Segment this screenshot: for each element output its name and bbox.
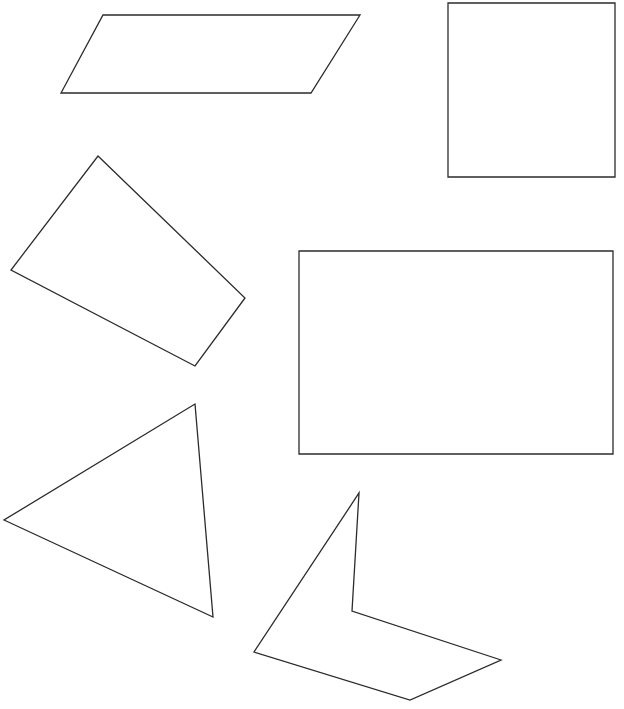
square-shape	[448, 3, 615, 177]
parallelogram-shape	[61, 15, 360, 93]
quadrilateral-shape	[11, 156, 245, 366]
triangle-shape	[4, 404, 213, 617]
diagram-canvas	[0, 0, 624, 709]
concave-quadrilateral-shape	[254, 493, 501, 700]
shapes-figure	[0, 0, 624, 709]
rectangle-shape	[299, 251, 613, 454]
